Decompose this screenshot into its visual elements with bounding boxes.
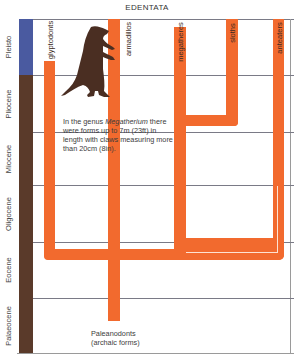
epoch-label-miocene: Miocene	[0, 132, 16, 185]
epoch-label-palaeocene: Palaeocene	[0, 298, 16, 353]
branch-pilosa-bar	[174, 238, 284, 249]
branch-megathere-sloth-connector	[174, 115, 238, 126]
epoch-bar-pleistocene	[19, 19, 33, 75]
frame-bottom-line	[17, 353, 294, 354]
epoch-bar-tertiary	[19, 75, 33, 353]
diagram-title: EDENTATA	[0, 3, 294, 12]
footnote-line-2: (archaic forms)	[91, 338, 140, 347]
footnote-line-1: Paleanodonts	[91, 329, 140, 338]
epoch-label-pleistocene: Pleisto	[0, 19, 16, 75]
frame-right-line	[290, 19, 291, 353]
epoch-label-oligocene: Oligocene	[0, 185, 16, 242]
megatherium-note: In the genus Megatherium there were form…	[63, 117, 173, 153]
taxon-label-glyptodonts: glyptodonts	[44, 20, 55, 60]
branch-main-crossbar	[44, 249, 284, 260]
taxon-label-sloths: sloths	[226, 20, 238, 46]
taxon-label-armadillos: armadillos	[122, 20, 133, 58]
branch-glyptodonts	[44, 61, 55, 260]
taxon-label-megatheres: megatheres	[174, 22, 186, 62]
epoch-label-pliocene: Pliocene	[0, 75, 16, 132]
epoch-label-eocene: Eocene	[0, 242, 16, 298]
inner-highlight-line	[277, 186, 278, 253]
epoch-divider	[33, 298, 294, 299]
paleanodonts-label: Paleanodonts (archaic forms)	[91, 329, 140, 347]
taxon-label-anteaters: anteaters	[273, 20, 284, 56]
frame-top-line	[33, 19, 294, 20]
genus-name: Megatherium	[105, 117, 148, 126]
epoch-divider	[33, 185, 294, 186]
giant-ground-sloth-icon	[61, 25, 119, 101]
inner-highlight-line	[186, 252, 278, 253]
